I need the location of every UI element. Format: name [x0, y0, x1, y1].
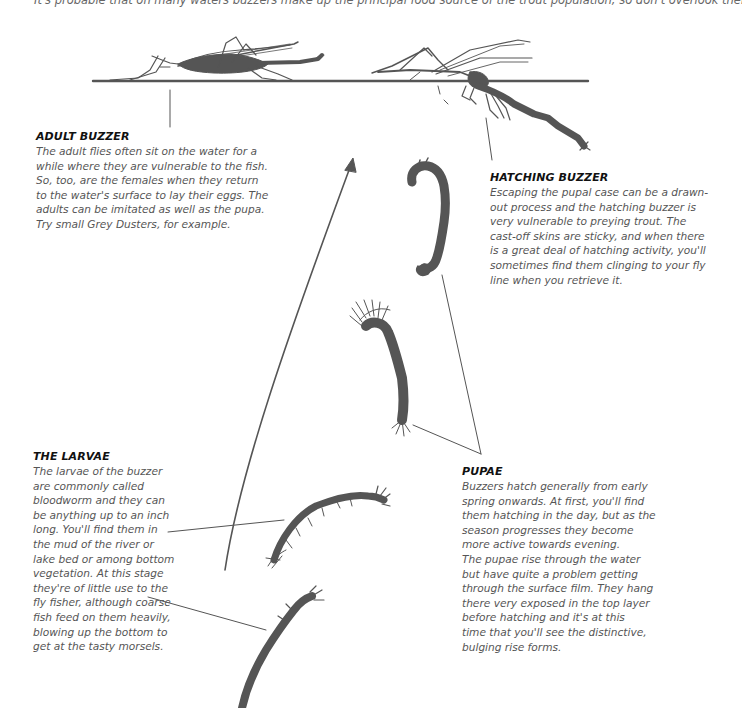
text-line: season progresses they become — [462, 523, 656, 538]
text-line: The larvae of the buzzer — [33, 464, 174, 479]
pupa-lower-icon — [350, 300, 410, 436]
hatching-buzzer-body: Escaping the pupal case can be a drawn- … — [490, 185, 708, 287]
text-line: fish feed on them heavily, — [33, 610, 174, 625]
text-line: be anything up to an inch — [33, 508, 174, 523]
text-line: them hatching in the day, but as the — [462, 508, 656, 523]
text-line: bloodworm and they can — [33, 493, 174, 508]
text-line: are commonly called — [33, 479, 174, 494]
larvae-leader-line-upper — [168, 520, 284, 532]
larva-lower-icon — [242, 586, 324, 708]
adult-buzzer-body: The adult flies often sit on the water f… — [36, 144, 268, 232]
text-line: while where they are vulnerable to the f… — [36, 159, 268, 174]
text-line: is a great deal of hatching activity, yo… — [490, 243, 708, 258]
text-line: before hatching and it's at this — [462, 610, 656, 625]
text-line: spring onwards. At first, you'll find — [462, 494, 656, 509]
text-line: there very exposed in the top layer — [462, 596, 656, 611]
hatching-leader-line — [486, 118, 492, 160]
text-line: they're of little use to the — [33, 581, 174, 596]
text-line: through the surface film. They hang — [462, 581, 656, 596]
text-line: line when you retrieve it. — [490, 273, 708, 288]
text-line: but have quite a problem getting — [462, 567, 656, 582]
text-line: The pupae rise through the water — [462, 552, 656, 567]
text-line: long. You'll find them in — [33, 522, 174, 537]
text-line: sometimes find them clinging to your fly — [490, 258, 708, 273]
pupae-body: Buzzers hatch generally from early sprin… — [462, 479, 656, 654]
larva-upper-icon — [266, 486, 390, 568]
text-line: the mud of the river or — [33, 537, 174, 552]
adult-buzzer-icon — [110, 37, 324, 80]
text-line: cast-off skins are sticky, and when ther… — [490, 229, 708, 244]
pupae-title: PUPAE — [462, 465, 656, 479]
text-line: Try small Grey Dusters, for example. — [36, 217, 268, 232]
hatching-buzzer-icon — [372, 40, 590, 150]
text-line: time that you'll see the distinctive, — [462, 625, 656, 640]
hatching-buzzer-title: HATCHING BUZZER — [490, 171, 708, 185]
text-line: very vulnerable to preying trout. The — [490, 214, 708, 229]
text-line: to the water's surface to lay their eggs… — [36, 188, 268, 203]
text-line: get at the tasty morsels. — [33, 639, 174, 654]
text-line: Escaping the pupal case can be a drawn- — [490, 185, 708, 200]
hatching-buzzer-section: HATCHING BUZZER Escaping the pupal case … — [490, 171, 708, 287]
adult-buzzer-title: ADULT BUZZER — [36, 130, 268, 144]
text-line: The adult flies often sit on the water f… — [36, 144, 268, 159]
pupae-leader-line-upper — [442, 275, 481, 454]
larvae-title: THE LARVAE — [33, 450, 174, 464]
text-line: bulging rise forms. — [462, 640, 656, 655]
text-line: out process and the hatching buzzer is — [490, 200, 708, 215]
text-line: adults can be imitated as well as the pu… — [36, 202, 268, 217]
pupa-upper-icon — [412, 158, 446, 275]
larvae-section: THE LARVAE The larvae of the buzzer are … — [33, 450, 174, 654]
text-line: more active towards evening. — [462, 537, 656, 552]
text-line: Buzzers hatch generally from early — [462, 479, 656, 494]
larvae-body: The larvae of the buzzer are commonly ca… — [33, 464, 174, 654]
pupae-section: PUPAE Buzzers hatch generally from early… — [462, 465, 656, 654]
adult-buzzer-section: ADULT BUZZER The adult flies often sit o… — [36, 130, 268, 232]
text-line: fly fisher, although coarse — [33, 595, 174, 610]
text-line: blowing up the bottom to — [33, 625, 174, 640]
text-line: So, too, are the females when they retur… — [36, 173, 268, 188]
text-line: vegetation. At this stage — [33, 566, 174, 581]
pupae-leader-line-lower — [413, 425, 481, 454]
text-line: lake bed or among bottom — [33, 552, 174, 567]
